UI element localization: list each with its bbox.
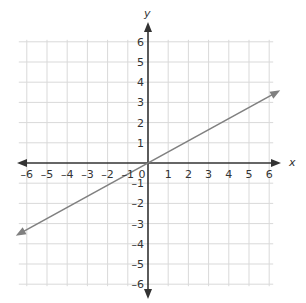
y-tick-label: –5 xyxy=(132,258,145,271)
x-tick-label: –2 xyxy=(101,168,114,181)
y-tick-label: 1 xyxy=(137,137,144,150)
y-tick-label: 6 xyxy=(137,36,144,49)
x-tick-label: 2 xyxy=(185,168,192,181)
x-axis-right-arrow-icon xyxy=(271,159,281,167)
x-tick-label: –5 xyxy=(41,168,54,181)
x-tick-label: 5 xyxy=(246,168,253,181)
y-tick-label: 2 xyxy=(137,117,144,130)
y-tick-label: 4 xyxy=(137,76,144,89)
y-tick-label: 3 xyxy=(137,96,144,109)
x-tick-label: –4 xyxy=(61,168,74,181)
axes xyxy=(17,22,281,299)
x-tick-label: 4 xyxy=(225,168,232,181)
line-start-arrow-icon xyxy=(16,227,27,235)
line-end-arrow-icon xyxy=(270,90,281,98)
x-tick-label: 1 xyxy=(165,168,172,181)
coordinate-plane: xy–6–5–4–3–2–10123456654321–1–2–3–4–5–6 xyxy=(0,0,306,303)
x-axis-left-arrow-icon xyxy=(17,159,27,167)
y-tick-label: –1 xyxy=(132,177,145,190)
x-tick-label: 6 xyxy=(266,168,273,181)
y-axis-up-arrow-icon xyxy=(144,22,152,32)
y-axis-down-arrow-icon xyxy=(144,289,152,299)
x-tick-label: 3 xyxy=(205,168,212,181)
y-tick-label: –4 xyxy=(132,238,145,251)
x-tick-label: –3 xyxy=(81,168,94,181)
y-tick-label: –2 xyxy=(132,197,145,210)
y-axis-label: y xyxy=(143,7,151,20)
x-axis-label: x xyxy=(288,156,296,169)
y-tick-label: 5 xyxy=(137,56,144,69)
x-tick-label: –6 xyxy=(21,168,34,181)
y-tick-label: –3 xyxy=(132,218,145,231)
tick-labels: xy–6–5–4–3–2–10123456654321–1–2–3–4–5–6 xyxy=(21,7,296,291)
y-tick-label: –6 xyxy=(132,278,145,291)
